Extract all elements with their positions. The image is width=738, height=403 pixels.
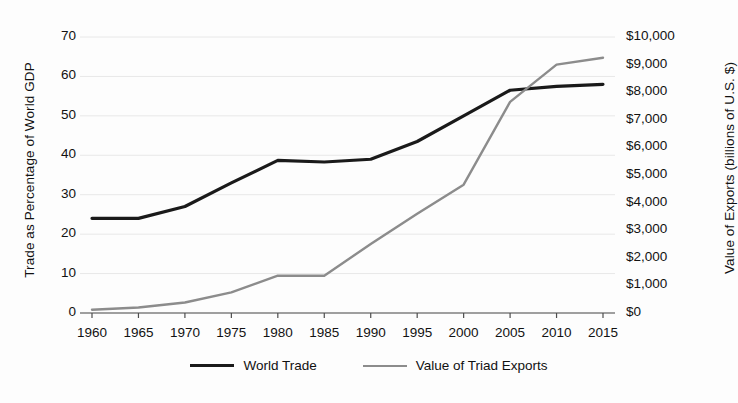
series-line-value-of-triad-exports bbox=[92, 58, 603, 310]
legend-entry: World Trade bbox=[190, 358, 316, 373]
chart-container: Trade as Percentage of World GDP Value o… bbox=[0, 0, 738, 403]
legend-line-swatch bbox=[190, 364, 234, 367]
legend-entry: Value of Triad Exports bbox=[363, 358, 548, 373]
legend-line-swatch bbox=[363, 365, 407, 367]
legend-label: Value of Triad Exports bbox=[416, 358, 548, 373]
chart-legend: World TradeValue of Triad Exports bbox=[0, 358, 738, 373]
series-line-world-trade bbox=[92, 84, 603, 218]
legend-label: World Trade bbox=[243, 358, 316, 373]
plot-area bbox=[0, 0, 738, 403]
